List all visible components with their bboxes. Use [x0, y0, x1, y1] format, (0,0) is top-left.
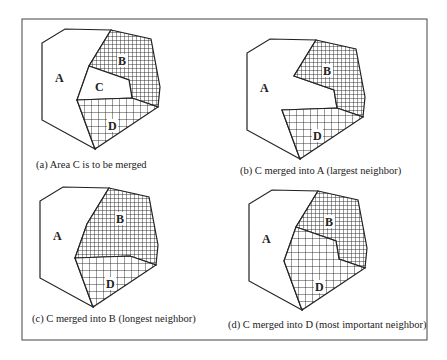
label-b: B — [116, 212, 124, 226]
label-b: B — [323, 64, 331, 78]
label-a: A — [262, 232, 271, 246]
area-merge-figure: A B C D (a) Area C is to be merged A B D… — [0, 0, 447, 360]
label-b: B — [325, 215, 333, 229]
label-d: D — [313, 129, 322, 143]
panel-c: A B D — [40, 187, 158, 307]
label-a: A — [53, 229, 62, 243]
caption-d: (d) C merged into D (most important neig… — [228, 319, 427, 331]
caption-b: (b) C merged into A (largest neighbor) — [240, 165, 402, 177]
panel-d: A B D — [249, 190, 367, 310]
caption-c: (c) C merged into B (longest neighbor) — [32, 313, 196, 325]
label-a: A — [260, 81, 269, 95]
label-d: D — [106, 277, 115, 291]
panel-a: A B C D (a) Area C is to be merged — [36, 29, 160, 171]
caption-a: (a) Area C is to be merged — [36, 159, 147, 171]
label-d: D — [315, 280, 324, 294]
label-b: B — [118, 54, 126, 68]
panel-b: A B D — [247, 39, 365, 159]
label-d: D — [108, 119, 117, 133]
label-c: C — [95, 80, 104, 94]
label-a: A — [55, 71, 64, 85]
